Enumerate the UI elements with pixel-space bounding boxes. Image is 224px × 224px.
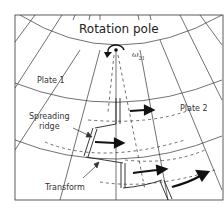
motion-arrow	[133, 170, 158, 173]
meridian	[15, 15, 35, 42]
diagram-title: Rotation pole	[79, 22, 159, 36]
transform-fault	[86, 157, 123, 163]
angular-velocity-label: ω21	[132, 50, 145, 61]
motion-arrow	[95, 142, 115, 143]
meridian	[140, 50, 168, 200]
meridian	[160, 40, 222, 190]
plate2-label: Plate 2	[180, 104, 208, 113]
meridian	[15, 50, 80, 150]
plate1-label: Plate 1	[37, 76, 65, 85]
meridian	[200, 15, 222, 45]
spreading-ridge-label: Spreading ridge	[29, 112, 70, 132]
transform-fault	[95, 124, 116, 128]
transform-label: Transform	[45, 183, 85, 192]
latitude-line	[15, 136, 222, 159]
flow-line	[88, 110, 190, 121]
flow-line	[118, 55, 145, 190]
flow-line	[108, 55, 114, 112]
meridian	[180, 15, 222, 100]
motion-arrow	[130, 110, 145, 111]
